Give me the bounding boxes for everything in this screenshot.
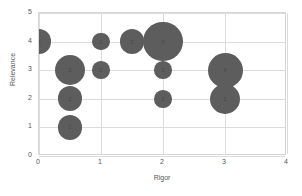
bubble-data-point: 3 — [210, 84, 240, 114]
x-tick-label: 0 — [28, 158, 48, 165]
bubble-data-point: 1 — [92, 33, 110, 51]
y-tick-label: 5 — [20, 8, 32, 15]
bubble-label: 1 — [161, 96, 164, 102]
bubble-data-point: 2 — [58, 86, 83, 111]
bubble-label: 1 — [99, 39, 102, 45]
y-tick-label: 3 — [20, 65, 32, 72]
y-tick-label: 4 — [20, 37, 32, 44]
bubble-label: 1 — [161, 67, 164, 73]
x-axis-title: Rigor — [38, 174, 286, 181]
bubble-data-point: 1 — [154, 61, 172, 79]
bubble-label: 3 — [223, 96, 226, 102]
y-tick-label: 1 — [20, 122, 32, 129]
x-tick-label: 3 — [214, 158, 234, 165]
bubble-data-point: 2 — [58, 115, 83, 140]
bubble-layer: 232211251143 — [39, 13, 285, 154]
gridline-horizontal — [39, 156, 285, 157]
bubble-data-point: 1 — [154, 90, 172, 108]
y-tick-label: 2 — [20, 94, 32, 101]
bubble-data-point: 2 — [120, 29, 145, 54]
bubble-label: 2 — [68, 96, 71, 102]
y-tick-label: 0 — [20, 151, 32, 158]
bubble-data-point: 4 — [208, 53, 243, 88]
bubble-data-point: 5 — [143, 22, 182, 61]
bubble-label: 2 — [39, 39, 41, 45]
gridline-vertical — [287, 13, 288, 154]
plot-area: 232211251143 — [38, 12, 286, 155]
bubble-label: 3 — [68, 67, 71, 73]
bubble-label: 4 — [223, 67, 226, 73]
bubble-data-point: 3 — [55, 55, 85, 85]
bubble-label: 2 — [68, 124, 71, 130]
bubble-data-point: 2 — [39, 29, 51, 54]
bubble-label: 2 — [130, 39, 133, 45]
bubble-label: 1 — [99, 67, 102, 73]
y-axis-title: Relevance — [9, 35, 16, 105]
x-tick-label: 4 — [276, 158, 296, 165]
bubble-data-point: 1 — [92, 61, 110, 79]
bubble-label: 5 — [161, 39, 164, 45]
x-tick-label: 2 — [152, 158, 172, 165]
x-tick-label: 1 — [90, 158, 110, 165]
bubble-chart: 232211251143 01234 012345 Rigor Relevanc… — [0, 0, 302, 196]
